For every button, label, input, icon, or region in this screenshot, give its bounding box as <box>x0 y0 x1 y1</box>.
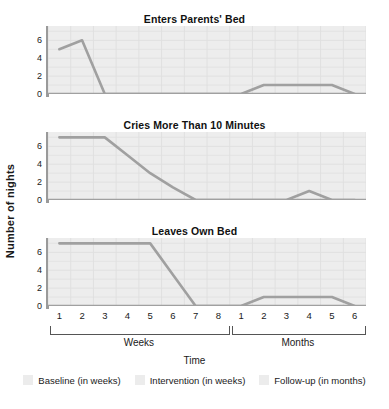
x-tick-label: 7 <box>189 310 203 321</box>
chart-panel: Cries More Than 10 Minutes0246 <box>0 118 389 200</box>
months-bracket-label: Months <box>232 337 364 348</box>
y-tick-label: 2 <box>28 178 42 186</box>
panel-title: Cries More Than 10 Minutes <box>0 118 389 132</box>
y-tick-labels: 0246 <box>26 132 42 200</box>
y-tick-label: 2 <box>28 284 42 292</box>
legend-swatch-icon <box>135 375 145 385</box>
y-tick-label: 4 <box>28 160 42 168</box>
legend-swatch-icon <box>23 375 33 385</box>
x-axis: 12345678123456WeeksMonths <box>0 310 389 360</box>
y-tick-label: 2 <box>28 72 42 80</box>
x-tick-label: 5 <box>143 310 157 321</box>
panel-title: Enters Parents' Bed <box>0 12 389 26</box>
legend-item: Follow-up (in months) <box>259 375 365 386</box>
y-tick-labels: 0246 <box>26 26 42 94</box>
y-tick-label: 6 <box>28 248 42 256</box>
y-tick-labels: 0246 <box>26 238 42 306</box>
x-tick-label: 2 <box>257 310 271 321</box>
y-tick-label: 4 <box>28 266 42 274</box>
x-axis-title: Time <box>0 355 389 366</box>
legend: Baseline (in weeks)Intervention (in week… <box>0 372 389 388</box>
figure-root: Number of nights Enters Parents' Bed0246… <box>0 0 389 409</box>
plot-box <box>48 238 366 306</box>
legend-label: Intervention (in weeks) <box>150 375 246 386</box>
x-tick-label: 6 <box>348 310 362 321</box>
plot-box <box>48 132 366 200</box>
y-tick-label: 6 <box>28 142 42 150</box>
legend-item: Baseline (in weeks) <box>23 375 120 386</box>
legend-label: Follow-up (in months) <box>274 375 365 386</box>
x-tick-label: 4 <box>121 310 135 321</box>
y-tick-label: 4 <box>28 54 42 62</box>
chart-panel: Leaves Own Bed0246 <box>0 224 389 306</box>
weeks-bracket-label: Weeks <box>50 337 228 348</box>
x-tick-label: 4 <box>302 310 316 321</box>
legend-label: Baseline (in weeks) <box>38 375 120 386</box>
panel-plot-area: 0246 <box>0 132 389 200</box>
x-tick-label: 8 <box>211 310 225 321</box>
y-tick-label: 0 <box>28 196 42 204</box>
y-tick-label: 6 <box>28 36 42 44</box>
panel-title: Leaves Own Bed <box>0 224 389 238</box>
x-tick-label: 1 <box>234 310 248 321</box>
x-tick-label: 1 <box>52 310 66 321</box>
months-bracket <box>232 326 366 335</box>
panel-plot-area: 0246 <box>0 26 389 94</box>
x-tick-label: 3 <box>280 310 294 321</box>
x-tick-label: 6 <box>166 310 180 321</box>
panel-plot-area: 0246 <box>0 238 389 306</box>
legend-item: Intervention (in weeks) <box>135 375 246 386</box>
x-tick-label: 5 <box>325 310 339 321</box>
y-tick-label: 0 <box>28 302 42 310</box>
x-tick-label: 2 <box>75 310 89 321</box>
weeks-bracket <box>50 326 230 335</box>
legend-swatch-icon <box>259 375 269 385</box>
x-tick-label: 3 <box>98 310 112 321</box>
plot-box <box>48 26 366 94</box>
y-tick-label: 0 <box>28 90 42 98</box>
chart-panel: Enters Parents' Bed0246 <box>0 12 389 94</box>
